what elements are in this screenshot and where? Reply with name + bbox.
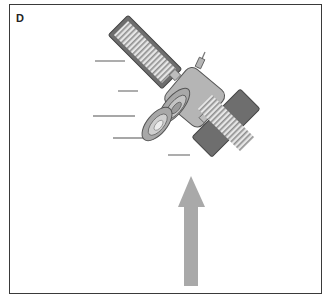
solar-panel-upper	[108, 15, 182, 89]
satellite-icon	[108, 15, 271, 168]
diagram-scene	[0, 0, 328, 304]
arrow-up-icon	[178, 176, 205, 286]
